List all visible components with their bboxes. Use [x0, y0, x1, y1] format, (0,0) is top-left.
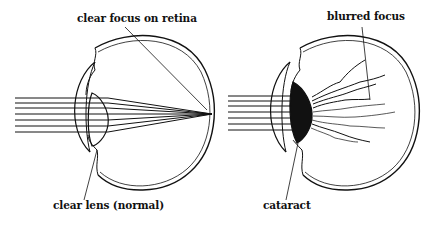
normal-eye-bottom-label: clear lens (normal) [53, 199, 164, 211]
normal-eye-diagram [15, 27, 214, 200]
cataract-eye-top-label: blurred focus [327, 10, 405, 22]
normal-eye-top-label: clear focus on retina [77, 12, 197, 24]
eye-diagram-canvas [0, 0, 434, 227]
cataract-eye-diagram [228, 27, 419, 200]
cataract-eye-bottom-label: cataract [263, 199, 311, 211]
